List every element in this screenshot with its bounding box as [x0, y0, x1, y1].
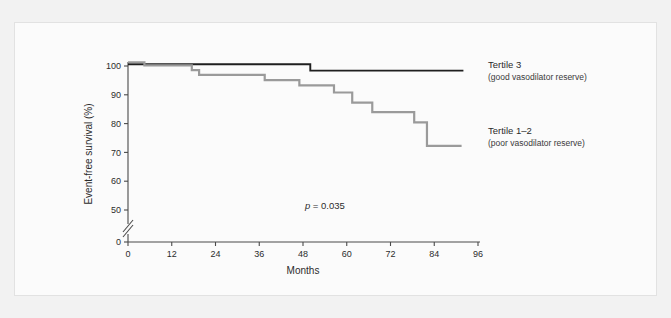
curves-group [128, 62, 463, 146]
km-curve-tertile-1-2 [128, 62, 462, 146]
legend-sublabel-tertile-3: (good vasodilator reserve) [488, 72, 587, 82]
kaplan-meier-chart: 0506070809010001224364860728496 MonthsEv… [0, 0, 671, 318]
axes-group: 0506070809010001224364860728496 [106, 61, 483, 259]
x-tick-label: 36 [254, 249, 264, 259]
x-tick-label: 0 [125, 249, 130, 259]
p-value-number: = 0.035 [310, 200, 345, 211]
x-tick-label: 72 [385, 249, 395, 259]
y-tick-label: 100 [106, 61, 121, 71]
y-tick-label: 80 [111, 119, 121, 129]
legend-sublabel-tertile-1-2: (poor vasodilator reserve) [488, 138, 585, 148]
legend-label-tertile-3: Tertile 3 [488, 59, 521, 70]
y-tick-label: 50 [111, 205, 121, 215]
p-value-annotation: p = 0.035 [304, 200, 345, 211]
y-tick-label: 70 [111, 148, 121, 158]
x-tick-label: 84 [429, 249, 439, 259]
x-tick-label: 12 [167, 249, 177, 259]
y-axis-title: Event-free survival (%) [83, 103, 94, 204]
x-tick-label: 60 [342, 249, 352, 259]
figure-root: 0506070809010001224364860728496 MonthsEv… [0, 0, 671, 318]
x-tick-label: 24 [210, 249, 220, 259]
y-tick-label: 60 [111, 176, 121, 186]
x-tick-label: 48 [298, 249, 308, 259]
x-axis-title: Months [287, 265, 320, 276]
legend-label-tertile-1-2: Tertile 1–2 [488, 125, 532, 136]
y-tick-label: 0 [116, 237, 121, 247]
y-tick-label: 90 [111, 90, 121, 100]
x-tick-label: 96 [473, 249, 483, 259]
